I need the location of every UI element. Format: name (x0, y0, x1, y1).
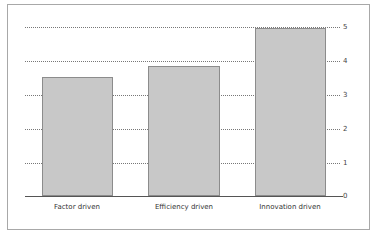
x-label-efficiency-driven: Efficiency driven (134, 203, 234, 211)
bar-innovation-driven (255, 28, 326, 196)
bar-factor-driven (42, 77, 113, 196)
y-tick-3: 3 (343, 91, 347, 99)
y-tick-1: 1 (343, 159, 347, 167)
x-label-innovation-driven: Innovation driven (240, 203, 340, 211)
x-axis-baseline (25, 196, 343, 197)
y-tick-4: 4 (343, 57, 347, 65)
bar-efficiency-driven (148, 66, 220, 196)
y-tick-0: 0 (343, 192, 347, 200)
y-tick-5: 5 (343, 23, 347, 31)
x-label-factor-driven: Factor driven (27, 203, 127, 211)
y-tick-2: 2 (343, 125, 347, 133)
